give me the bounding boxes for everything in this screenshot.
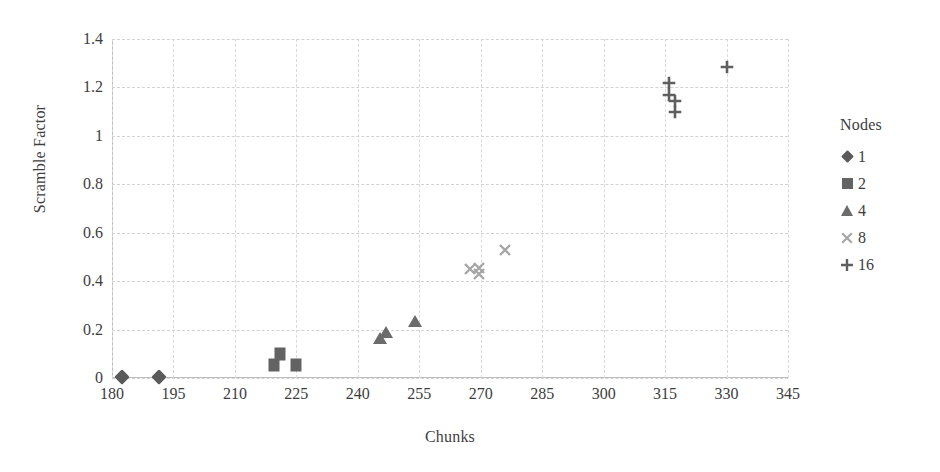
gridline-vertical (419, 39, 420, 378)
x-axis-title: Chunks (112, 428, 788, 446)
legend-title: Nodes (840, 116, 934, 134)
gridline-horizontal (112, 39, 788, 40)
gridline-vertical (481, 39, 482, 378)
y-tick-label: 0.8 (83, 175, 103, 193)
x-tick-label: 225 (284, 385, 308, 403)
gridline-horizontal (112, 136, 788, 137)
gridline-vertical (112, 39, 113, 378)
legend: Nodes 124816 (826, 116, 934, 278)
data-point-marker (151, 369, 167, 385)
cross-icon (838, 229, 856, 247)
data-point-marker (719, 59, 734, 74)
legend-item-2[interactable]: 2 (838, 170, 934, 197)
legend-item-label: 2 (858, 175, 866, 193)
legend-item-label: 4 (858, 202, 866, 220)
legend-item-1[interactable]: 1 (838, 143, 934, 170)
gridline-vertical (173, 39, 174, 378)
gridline-vertical (604, 39, 605, 378)
legend-item-16[interactable]: 16 (838, 251, 934, 278)
plus-icon (838, 256, 856, 274)
legend-item-8[interactable]: 8 (838, 224, 934, 251)
x-tick-label: 195 (161, 385, 185, 403)
data-point-marker (291, 358, 302, 371)
data-point-marker (408, 315, 422, 327)
x-tick-label: 270 (469, 385, 493, 403)
gridline-vertical (235, 39, 236, 378)
x-tick-label: 330 (715, 385, 739, 403)
y-tick-label: 1.4 (83, 30, 103, 48)
x-tick-label: 285 (530, 385, 554, 403)
data-point-marker (498, 242, 513, 257)
x-tick-label: 255 (407, 385, 431, 403)
gridline-vertical (542, 39, 543, 378)
legend-item-label: 8 (858, 229, 866, 247)
y-axis-title: Scramble Factor (31, 59, 49, 259)
square-icon (838, 175, 856, 193)
y-tick-label: 1.2 (83, 78, 103, 96)
legend-item-label: 16 (858, 256, 874, 274)
x-tick-label: 210 (223, 385, 247, 403)
data-point-marker (379, 326, 393, 338)
y-tick-label: 0.4 (83, 272, 103, 290)
x-tick-label: 345 (776, 385, 800, 403)
legend-item-4[interactable]: 4 (838, 197, 934, 224)
gridline-horizontal (112, 87, 788, 88)
y-tick-label: 1 (95, 127, 103, 145)
gridline-vertical (358, 39, 359, 378)
scatter-chart: Scramble Factor 00.20.40.60.811.21.4 180… (0, 0, 940, 472)
gridline-vertical (296, 39, 297, 378)
data-point-marker (668, 104, 683, 119)
data-point-marker (274, 347, 285, 360)
x-tick-label: 180 (100, 385, 124, 403)
gridline-horizontal (112, 184, 788, 185)
y-tick-label: 0.2 (83, 321, 103, 339)
gridline-vertical (727, 39, 728, 378)
data-point-marker (114, 369, 130, 385)
gridline-horizontal (112, 330, 788, 331)
x-tick-label: 315 (653, 385, 677, 403)
legend-item-label: 1 (858, 148, 866, 166)
diamond-icon (838, 148, 856, 166)
triangle-icon (838, 202, 856, 220)
gridline-vertical (788, 39, 789, 378)
gridline-horizontal (112, 281, 788, 282)
y-tick-label: 0.6 (83, 224, 103, 242)
gridline-horizontal (112, 233, 788, 234)
legend-items: 124816 (826, 143, 934, 278)
plot-area: 00.20.40.60.811.21.4 1801952102252402552… (112, 39, 788, 378)
x-tick-label: 240 (346, 385, 370, 403)
gridline-horizontal (112, 378, 788, 379)
x-tick-label: 300 (592, 385, 616, 403)
data-point-marker (471, 266, 486, 281)
